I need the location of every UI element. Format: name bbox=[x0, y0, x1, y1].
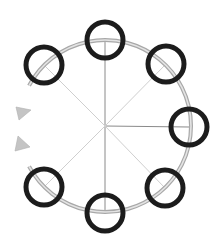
arrowhead-upper-icon bbox=[16, 107, 31, 120]
cycle-arrows bbox=[15, 107, 31, 151]
spoke-top-right bbox=[105, 64, 166, 126]
spoke-bottom-left bbox=[44, 126, 105, 187]
spoke-right bbox=[105, 126, 189, 127]
cycle-diagram bbox=[0, 0, 224, 252]
arrowhead-lower-icon bbox=[15, 136, 30, 151]
spoke-bottom-right bbox=[105, 126, 165, 188]
spoke-top-left bbox=[44, 65, 105, 126]
